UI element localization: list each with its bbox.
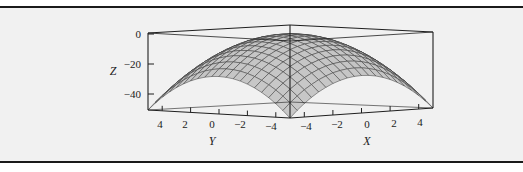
x-axis-title: X — [362, 134, 371, 148]
z-tick-label: 0 — [136, 28, 142, 40]
surface-plot: 0 −20 −40 Z 4 2 0 −2 −4 Y −4 −2 0 2 4 X — [0, 0, 523, 172]
y-tick-label: 0 — [209, 118, 215, 130]
mesh-cell — [397, 79, 411, 91]
z-tick-label: −40 — [124, 88, 142, 100]
z-axis-ticks — [148, 34, 154, 94]
x-tick-label: 0 — [364, 118, 370, 130]
y-tick-label: −4 — [265, 120, 277, 132]
y-axis-title: Y — [209, 134, 217, 148]
y-tick-label: 2 — [182, 118, 188, 130]
x-tick-label: −4 — [300, 120, 312, 132]
mesh-cell — [169, 80, 183, 92]
z-axis-title: Z — [110, 64, 117, 78]
y-tick-label: −2 — [234, 118, 246, 130]
x-tick-label: −2 — [331, 118, 343, 130]
z-tick-label: −20 — [124, 58, 142, 70]
x-tick-label: 2 — [391, 117, 397, 129]
x-tick-label: 4 — [417, 116, 423, 128]
y-tick-label: 4 — [157, 118, 163, 130]
